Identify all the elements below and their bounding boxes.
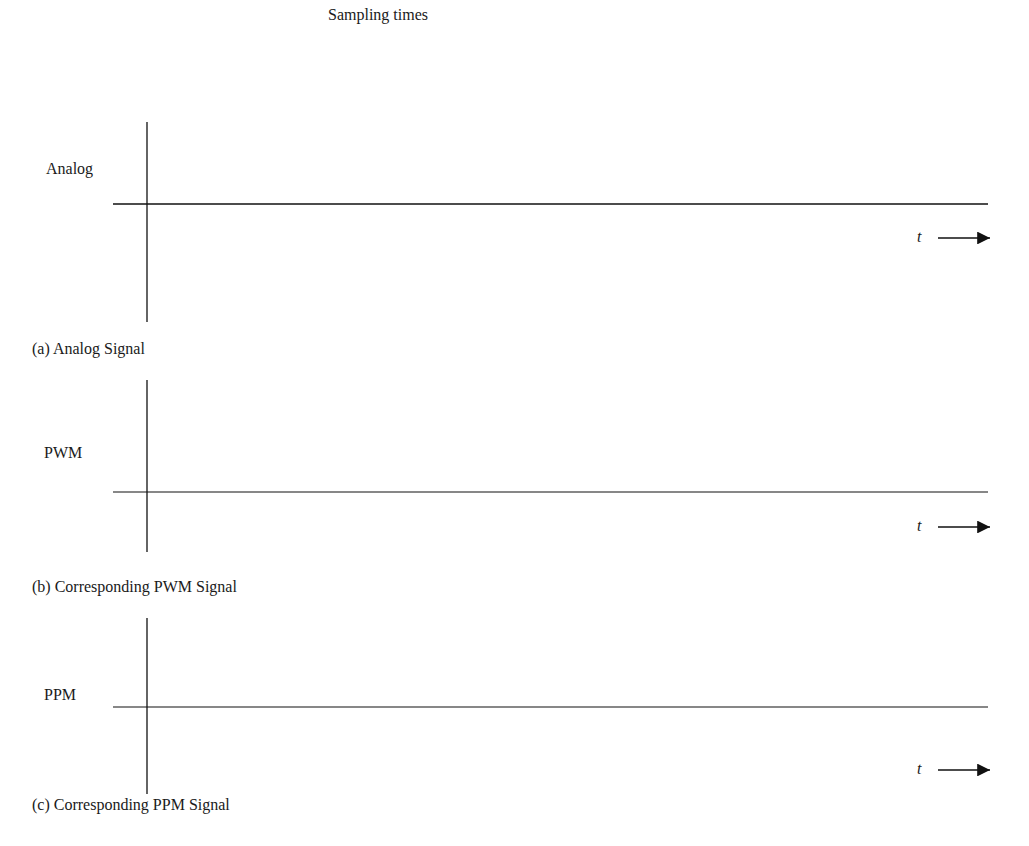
time-label: t [917, 760, 921, 778]
pwm-caption: (b) Corresponding PWM Signal [32, 578, 237, 596]
time-label: t [917, 517, 921, 535]
ppm-panel [113, 618, 990, 794]
analog-panel [113, 122, 990, 322]
pulse-modulation-diagram [0, 0, 1029, 846]
ppm-signal-label: PPM [44, 686, 76, 704]
time-label: t [917, 228, 921, 246]
ppm-caption: (c) Corresponding PPM Signal [32, 796, 230, 814]
sampling-times-title: Sampling times [328, 6, 428, 24]
pwm-signal-label: PWM [44, 444, 82, 462]
pwm-panel [113, 380, 990, 552]
analog-signal-label: Analog [46, 160, 93, 178]
analog-caption: (a) Analog Signal [32, 340, 145, 358]
